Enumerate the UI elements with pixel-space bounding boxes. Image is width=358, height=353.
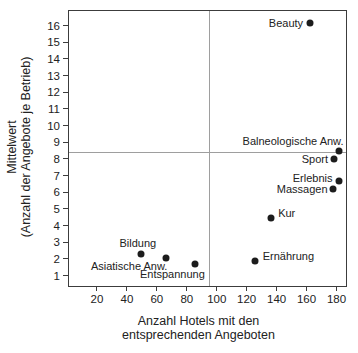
y-tick bbox=[63, 175, 68, 176]
y-tick-label: 15 bbox=[34, 36, 60, 48]
x-axis-label-line2: entsprechenden Angeboten bbox=[60, 328, 337, 342]
x-tick bbox=[156, 286, 157, 291]
y-tick bbox=[63, 125, 68, 126]
y-tick-label: 2 bbox=[34, 253, 60, 265]
y-tick-label: 5 bbox=[34, 203, 60, 215]
y-tick-label: 7 bbox=[34, 170, 60, 182]
x-tick bbox=[216, 286, 217, 291]
y-tick bbox=[63, 208, 68, 209]
y-tick bbox=[63, 75, 68, 76]
y-axis-label-line1: Mittelwert bbox=[5, 2, 19, 292]
data-point-label-bildung: Bildung bbox=[120, 238, 157, 249]
x-tick bbox=[336, 286, 337, 291]
y-axis-label-line2: (Anzahl der Angebote je Betrieb) bbox=[19, 2, 33, 292]
data-point-label-sport: Sport bbox=[302, 154, 328, 165]
y-tick-label: 14 bbox=[34, 53, 60, 65]
data-point-label-ern-hrung: Ernährung bbox=[263, 251, 314, 262]
x-tick bbox=[186, 286, 187, 291]
data-point-ern-hrung bbox=[251, 258, 258, 265]
data-point-label-balneologische-anw: Balneologische Anw. bbox=[243, 136, 344, 147]
data-point-label-massagen: Massagen bbox=[277, 184, 328, 195]
x-axis-label-line1: Anzahl Hotels mit den bbox=[60, 314, 337, 328]
y-tick-label: 4 bbox=[34, 220, 60, 232]
y-tick bbox=[63, 25, 68, 26]
data-point-erlebnis bbox=[335, 178, 342, 185]
data-point-label-beauty: Beauty bbox=[269, 17, 303, 28]
scatter-plot-figure: BeautyBalneologische Anw.SportErlebnisMa… bbox=[0, 0, 358, 353]
x-tick bbox=[306, 286, 307, 291]
plot-area: BeautyBalneologische Anw.SportErlebnisMa… bbox=[68, 10, 347, 287]
y-tick bbox=[63, 158, 68, 159]
y-tick bbox=[63, 192, 68, 193]
y-tick bbox=[63, 42, 68, 43]
data-point-kur bbox=[268, 214, 275, 221]
x-tick bbox=[126, 286, 127, 291]
data-point-massagen bbox=[329, 186, 336, 193]
data-point-balneologische-anw bbox=[335, 148, 342, 155]
y-tick-label: 11 bbox=[34, 103, 60, 115]
y-tick bbox=[63, 258, 68, 259]
data-point-beauty bbox=[307, 19, 314, 26]
data-point-entspannung bbox=[191, 261, 198, 268]
y-tick-label: 8 bbox=[34, 153, 60, 165]
x-tick bbox=[276, 286, 277, 291]
data-point-bildung bbox=[137, 251, 144, 258]
y-tick-label: 1 bbox=[34, 270, 60, 282]
x-axis-label: Anzahl Hotels mit den entsprechenden Ang… bbox=[60, 314, 337, 342]
y-tick-label: 3 bbox=[34, 236, 60, 248]
data-point-label-kur: Kur bbox=[278, 207, 295, 218]
y-tick-label: 10 bbox=[34, 120, 60, 132]
x-tick-label: 180 bbox=[317, 293, 357, 305]
y-tick bbox=[63, 108, 68, 109]
y-tick bbox=[63, 225, 68, 226]
y-tick bbox=[63, 275, 68, 276]
y-tick-label: 9 bbox=[34, 136, 60, 148]
y-tick bbox=[63, 92, 68, 93]
y-tick bbox=[63, 242, 68, 243]
x-tick bbox=[96, 286, 97, 291]
reference-line-vertical bbox=[209, 11, 210, 286]
y-tick bbox=[63, 58, 68, 59]
data-point-sport bbox=[331, 156, 338, 163]
y-tick-label: 12 bbox=[34, 86, 60, 98]
y-tick-label: 16 bbox=[34, 20, 60, 32]
y-tick bbox=[63, 142, 68, 143]
y-tick-label: 6 bbox=[34, 186, 60, 198]
y-axis-label: Mittelwert (Anzahl der Angebote je Betri… bbox=[5, 2, 33, 292]
y-tick-label: 13 bbox=[34, 70, 60, 82]
x-tick bbox=[246, 286, 247, 291]
data-point-label-entspannung: Entspannung bbox=[140, 269, 205, 280]
